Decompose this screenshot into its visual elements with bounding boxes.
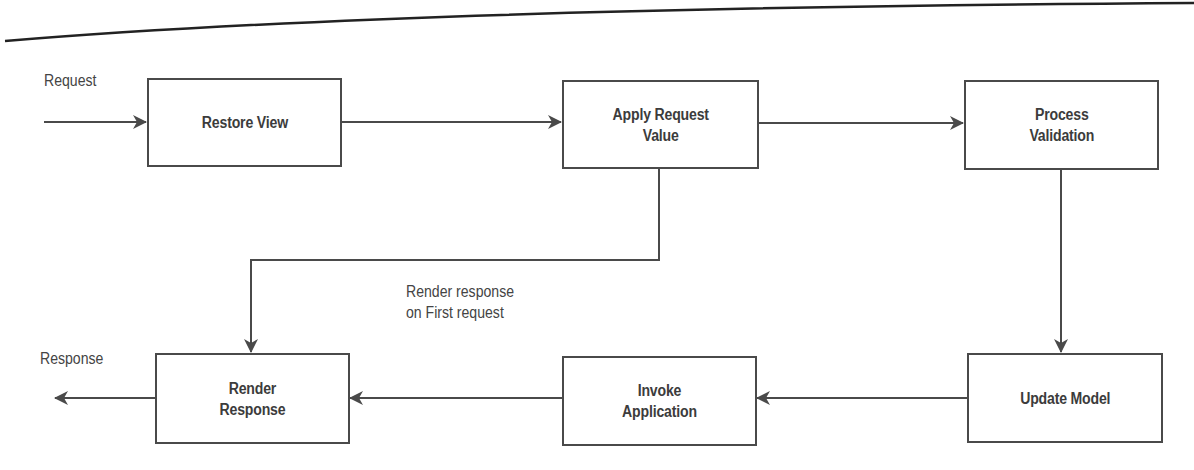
node-apply-request-value: Apply Request Value	[562, 80, 759, 169]
node-apply-request-value-label: Apply Request Value	[612, 104, 708, 146]
node-restore-view-label: Restore View	[201, 112, 287, 133]
node-update-model-label: Update Model	[1020, 388, 1110, 409]
node-process-validation-label: Process Validation	[1029, 104, 1094, 146]
node-invoke-application-label: Invoke Application	[622, 380, 697, 422]
node-invoke-application: Invoke Application	[562, 356, 757, 446]
node-process-validation: Process Validation	[964, 80, 1159, 170]
node-update-model: Update Model	[967, 353, 1163, 443]
node-render-response-label: Render Response	[220, 378, 286, 420]
node-restore-view: Restore View	[147, 78, 342, 167]
edge-apply-to-render	[251, 168, 659, 352]
response-label: Response	[40, 348, 103, 369]
request-label: Request	[44, 70, 96, 91]
page-edge-curve	[5, 3, 1194, 41]
render-first-request-label: Render response on First request	[406, 281, 514, 323]
node-render-response: Render Response	[155, 353, 350, 444]
